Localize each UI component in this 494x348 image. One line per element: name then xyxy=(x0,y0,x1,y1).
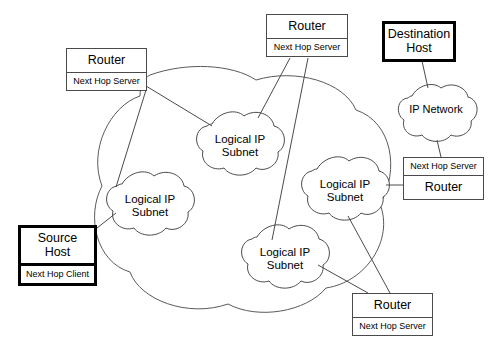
node-source-host-subtitle: Next Hop Client xyxy=(21,263,94,283)
node-destination-host-title: Destination Host xyxy=(385,24,453,59)
node-router-top[interactable]: Router Next Hop Server xyxy=(266,14,348,57)
node-router-right[interactable]: Next Hop Server Router xyxy=(403,157,484,200)
link-ip-network-to-router-right xyxy=(437,140,441,157)
node-source-host[interactable]: Source Host Next Hop Client xyxy=(18,225,97,286)
node-source-host-title: Source Host xyxy=(21,228,94,263)
node-router-bottom-subtitle: Next Hop Server xyxy=(353,317,432,335)
node-router-top-title: Router xyxy=(267,15,347,38)
node-router-left[interactable]: Router Next Hop Server xyxy=(66,48,147,91)
node-router-bottom-title: Router xyxy=(353,294,432,317)
link-destination-host-to-ip-network xyxy=(422,61,428,88)
node-destination-host[interactable]: Destination Host xyxy=(382,21,456,62)
node-router-right-title: Router xyxy=(404,175,483,199)
node-router-bottom[interactable]: Router Next Hop Server xyxy=(352,293,433,336)
cloud-label-ip-network: IP Network xyxy=(396,103,476,116)
node-router-left-title: Router xyxy=(67,49,146,72)
node-router-left-subtitle: Next Hop Server xyxy=(67,72,146,90)
node-router-top-subtitle: Next Hop Server xyxy=(267,38,347,56)
node-router-right-subtitle: Next Hop Server xyxy=(404,158,483,175)
network-diagram: Logical IP Subnet Logical IP Subnet Logi… xyxy=(0,0,494,348)
